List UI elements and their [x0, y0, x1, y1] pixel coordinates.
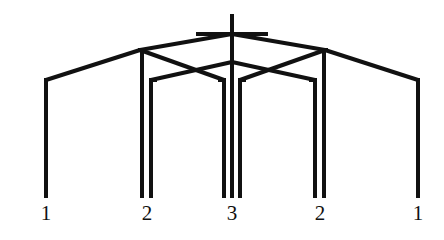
figure-root: 1 2 3 2 1 [0, 0, 444, 240]
label-1-right: 1 [413, 203, 424, 224]
label-3: 3 [227, 203, 238, 224]
label-2-right: 2 [315, 203, 326, 224]
label-1-left: 1 [41, 203, 52, 224]
label-2-left: 2 [142, 203, 153, 224]
truss-diagram-svg [0, 0, 444, 240]
